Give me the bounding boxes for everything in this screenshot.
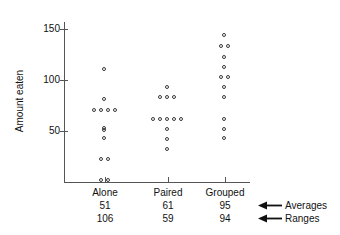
data-point [92, 108, 96, 112]
data-point [222, 85, 226, 89]
data-point [179, 117, 183, 121]
data-point [99, 108, 103, 112]
category-average-value: 95 [188, 199, 262, 212]
data-point [102, 126, 106, 130]
data-point [106, 178, 110, 182]
x-tick-mark-paired [168, 177, 169, 183]
data-point [222, 65, 226, 69]
annotation-row-ranges: Ranges [258, 212, 319, 225]
data-point [151, 117, 155, 121]
y-tick-label: 100 [32, 75, 60, 85]
data-point [158, 95, 162, 99]
data-point [222, 33, 226, 37]
data-point [158, 117, 162, 121]
data-point [222, 127, 226, 131]
data-point [106, 157, 110, 161]
data-point [102, 67, 106, 71]
annotation-label: Ranges [285, 213, 319, 224]
data-point [222, 95, 226, 99]
y-axis-line [64, 22, 65, 183]
y-tick-mark [60, 29, 68, 30]
annotation-row-averages: Averages [258, 199, 327, 212]
x-tick-mark-grouped [225, 177, 226, 183]
data-point [219, 44, 223, 48]
data-point [106, 108, 110, 112]
y-tick-label: 50 [32, 126, 60, 136]
x-axis-line [64, 182, 250, 183]
data-point [165, 137, 169, 141]
data-point [165, 95, 169, 99]
data-point [99, 178, 103, 182]
data-point [165, 117, 169, 121]
data-point [222, 136, 226, 140]
y-tick-mark [60, 80, 68, 81]
data-point [165, 85, 169, 89]
data-point [219, 75, 223, 79]
data-point [102, 97, 106, 101]
data-point [99, 157, 103, 161]
data-point [226, 75, 230, 79]
category-name: Grouped [188, 186, 262, 199]
y-tick-label-wrap: 150 [0, 24, 60, 34]
dot-plot-chart: Amount eaten 15010050 Alone51106Paired61… [0, 0, 340, 235]
data-point [222, 55, 226, 59]
data-point [165, 127, 169, 131]
category-block-grouped: Grouped9594 [188, 186, 262, 225]
data-point [102, 136, 106, 140]
left-arrow-icon [258, 201, 282, 210]
y-axis-title: Amount eaten [15, 41, 25, 161]
data-point [226, 44, 230, 48]
data-point [172, 95, 176, 99]
data-point [113, 108, 117, 112]
y-tick-mark [60, 131, 68, 132]
annotation-label: Averages [285, 200, 327, 211]
y-tick-label-wrap: 100 [0, 75, 60, 85]
data-point [172, 117, 176, 121]
category-range-value: 94 [188, 212, 262, 225]
y-tick-label: 150 [32, 24, 60, 34]
data-point [165, 147, 169, 151]
data-point [222, 117, 226, 121]
y-tick-label-wrap: 50 [0, 126, 60, 136]
left-arrow-icon [258, 214, 282, 223]
